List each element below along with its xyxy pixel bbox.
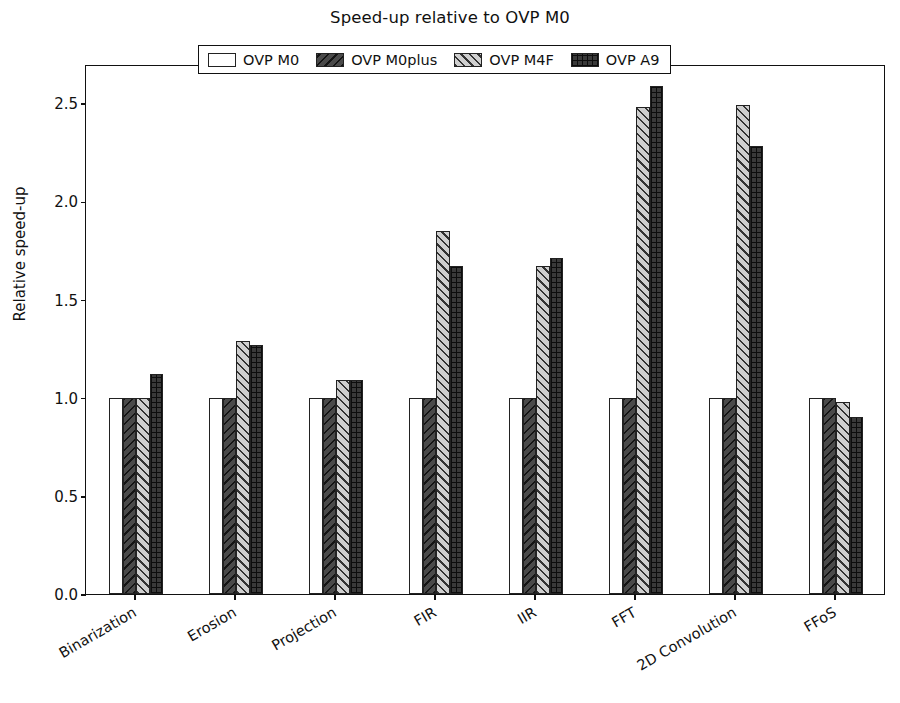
bar	[109, 398, 123, 594]
x-tick-label: Projection	[269, 604, 339, 654]
bar	[723, 398, 737, 594]
x-tick-label: Binarization	[56, 604, 139, 661]
bar-chart-figure: Speed-up relative to OVP M0 Relative spe…	[0, 0, 900, 703]
legend-entry: OVP M0plus	[316, 52, 437, 68]
chart-legend: OVP M0OVP M0plusOVP M4FOVP A9	[198, 45, 671, 74]
legend-entry: OVP A9	[571, 52, 660, 68]
bar	[736, 105, 750, 594]
legend-swatch-icon	[571, 53, 599, 67]
bar	[809, 398, 823, 594]
bar	[309, 398, 323, 594]
bar	[836, 402, 850, 594]
x-tick-label: 2D Convolution	[634, 604, 739, 674]
bar	[336, 380, 350, 594]
y-tick-label: 0.5	[40, 488, 78, 506]
y-axis-label: Relative speed-up	[11, 0, 29, 519]
bar	[523, 398, 537, 594]
x-tick-mark	[334, 595, 336, 600]
y-tick-label: 2.0	[40, 193, 78, 211]
bar	[123, 398, 137, 594]
y-tick-label: 1.5	[40, 292, 78, 310]
bar	[650, 86, 664, 594]
x-tick-mark	[534, 595, 536, 600]
legend-label: OVP A9	[606, 52, 660, 68]
bar	[550, 258, 564, 594]
bar	[709, 398, 723, 594]
legend-swatch-icon	[316, 53, 344, 67]
y-tick-label: 1.0	[40, 390, 78, 408]
x-tick-label: FFT	[609, 604, 639, 631]
bar	[150, 374, 164, 594]
bar	[423, 398, 437, 594]
bar	[536, 266, 550, 594]
bar	[223, 398, 237, 594]
chart-title: Speed-up relative to OVP M0	[0, 8, 900, 27]
legend-entry: OVP M4F	[454, 52, 554, 68]
legend-swatch-icon	[208, 53, 236, 67]
x-tick-label: FFoS	[801, 604, 839, 635]
x-tick-label: IIR	[515, 604, 539, 627]
bar	[450, 266, 464, 594]
bar	[209, 398, 223, 594]
x-tick-label: FIR	[411, 604, 439, 629]
legend-swatch-icon	[454, 53, 482, 67]
plot-area	[85, 65, 885, 595]
bar	[623, 398, 637, 594]
x-tick-mark	[634, 595, 636, 600]
bar	[850, 417, 864, 594]
legend-entry: OVP M0	[208, 52, 299, 68]
bar	[509, 398, 523, 594]
bar	[436, 231, 450, 594]
y-tick-label: 0.0	[40, 586, 78, 604]
bar	[609, 398, 623, 594]
x-tick-mark	[234, 595, 236, 600]
x-tick-mark	[834, 595, 836, 600]
bar	[136, 398, 150, 594]
x-tick-mark	[134, 595, 136, 600]
legend-label: OVP M0	[243, 52, 299, 68]
bar	[350, 380, 364, 594]
bar	[750, 146, 764, 594]
bar	[250, 345, 264, 594]
bar	[823, 398, 837, 594]
bar	[323, 398, 337, 594]
x-tick-label: Erosion	[185, 604, 239, 645]
bar	[409, 398, 423, 594]
y-tick-label: 2.5	[40, 95, 78, 113]
legend-label: OVP M0plus	[351, 52, 437, 68]
legend-label: OVP M4F	[489, 52, 554, 68]
bar	[236, 341, 250, 594]
bar	[636, 107, 650, 594]
x-tick-mark	[434, 595, 436, 600]
x-tick-mark	[734, 595, 736, 600]
